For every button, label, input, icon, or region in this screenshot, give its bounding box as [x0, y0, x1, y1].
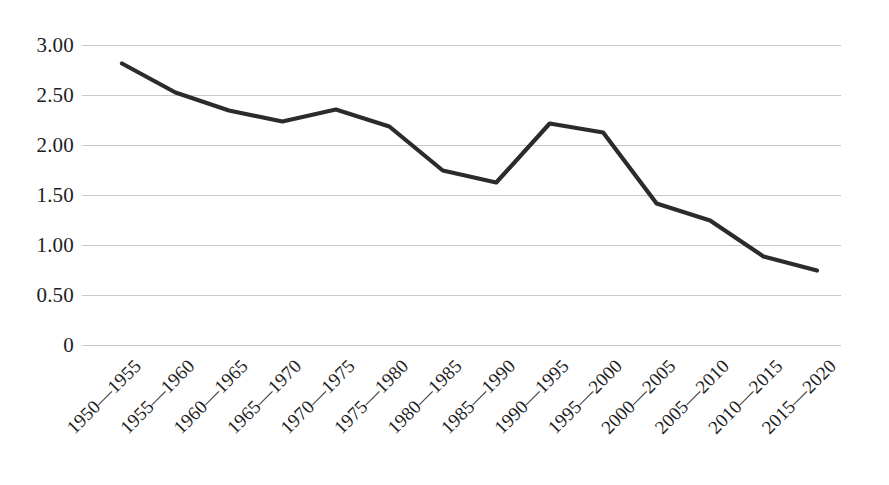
gridline-group — [82, 46, 841, 346]
y-axis-tick-label: 2.00 — [36, 133, 74, 158]
data-series-line — [122, 64, 817, 271]
y-axis-tick-label: 3.00 — [36, 33, 74, 58]
y-axis-tick-label: 0 — [63, 333, 74, 358]
y-axis-tick-label: 2.50 — [36, 83, 74, 108]
y-axis-tick-label: 1.50 — [36, 183, 74, 208]
y-axis-tick-label: 1.00 — [36, 233, 74, 258]
line-chart: 3.002.502.001.501.000.500 1950—19551955—… — [0, 0, 889, 485]
y-axis-tick-label: 0.50 — [36, 283, 74, 308]
